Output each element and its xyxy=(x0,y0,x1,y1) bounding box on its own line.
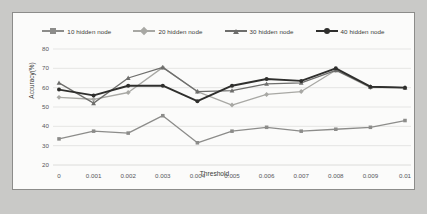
x-axis-label: Threshold xyxy=(13,170,416,177)
series-1 xyxy=(57,114,407,145)
data-point xyxy=(265,77,269,81)
data-point xyxy=(334,66,338,70)
x-axis-tick: 0.003 xyxy=(155,172,170,179)
chart-frame: 10 hidden node20 hidden node30 hidden no… xyxy=(12,12,415,190)
data-point xyxy=(299,129,303,133)
data-point xyxy=(334,127,338,131)
y-axis-tick: 30 xyxy=(27,142,49,149)
data-point xyxy=(57,137,61,141)
data-point xyxy=(161,114,165,118)
data-point xyxy=(57,80,62,84)
data-point xyxy=(368,85,372,89)
x-axis-tick: 0.004 xyxy=(190,172,205,179)
data-point xyxy=(196,141,200,145)
data-point xyxy=(403,119,407,123)
data-point xyxy=(92,129,96,133)
data-point xyxy=(92,93,96,97)
x-axis-tick: 0.01 xyxy=(399,172,411,179)
x-axis-tick: 0 xyxy=(57,172,60,179)
data-point xyxy=(57,95,62,100)
series-4 xyxy=(57,66,407,103)
x-axis-tick: 0.006 xyxy=(259,172,274,179)
y-axis-tick: 70 xyxy=(27,64,49,71)
data-point xyxy=(403,86,407,90)
x-axis-tick: 0.001 xyxy=(86,172,101,179)
data-point xyxy=(126,84,130,88)
plot-area: Accuracy(%) Threshold 2030405060708000.0… xyxy=(13,13,416,191)
x-axis-tick: 0.005 xyxy=(224,172,239,179)
data-point xyxy=(195,99,199,103)
data-point xyxy=(265,126,269,130)
x-axis-tick: 0.007 xyxy=(293,172,308,179)
y-axis-tick: 20 xyxy=(27,161,49,168)
data-point xyxy=(126,131,130,135)
data-point xyxy=(57,88,61,92)
series-line xyxy=(59,116,405,143)
y-axis-tick: 80 xyxy=(27,45,49,52)
data-point xyxy=(161,84,165,88)
y-axis-tick: 60 xyxy=(27,84,49,91)
data-point xyxy=(230,84,234,88)
chart-page: 10 hidden node20 hidden node30 hidden no… xyxy=(0,0,427,214)
y-axis-tick: 50 xyxy=(27,103,49,110)
plot-svg xyxy=(13,13,416,191)
y-axis-tick: 40 xyxy=(27,122,49,129)
data-point xyxy=(299,79,303,83)
x-axis-tick: 0.008 xyxy=(328,172,343,179)
x-axis-tick: 0.002 xyxy=(120,172,135,179)
x-axis-tick: 0.009 xyxy=(363,172,378,179)
data-point xyxy=(264,92,269,97)
data-point xyxy=(230,129,234,133)
data-point xyxy=(369,126,373,130)
